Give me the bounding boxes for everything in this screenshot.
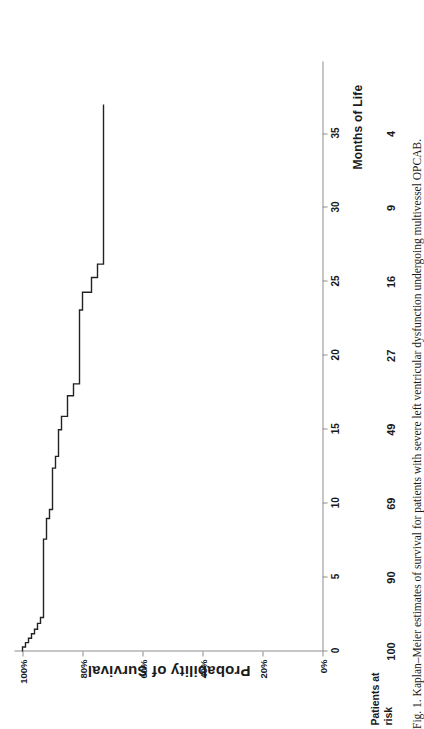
risk-value-0: 100 [384,642,396,660]
risk-title-line1: Patients at [368,672,380,725]
x-tick-label: 20 [329,349,340,360]
x-tick-label: 30 [329,201,340,212]
x-tick-15: 15 [322,428,327,429]
x-tick-35: 35 [322,133,327,134]
risk-title-line2: risk [381,672,394,725]
y-tick-label: 0% [318,659,329,673]
x-tick-25: 25 [322,280,327,281]
x-axis-title: Months of Life [350,84,364,169]
x-tick-label: 5 [329,573,340,579]
y-tick-80: 80% [82,651,83,656]
x-tick-label: 15 [329,423,340,434]
plot-area [22,67,322,651]
x-tick-label: 10 [329,497,340,508]
x-tick-20: 20 [322,354,327,355]
y-tick-100: 100% [22,651,23,656]
y-tick-40: 40% [202,651,203,656]
km-curve-path [22,104,103,651]
x-tick-5: 5 [322,576,327,577]
x-tick-label: 25 [329,275,340,286]
x-tick-30: 30 [322,206,327,207]
y-axis-title: Probability of Survival [19,663,319,680]
risk-value-5: 90 [384,571,396,583]
risk-value-10: 69 [384,497,396,509]
risk-table-title: Patients at risk [368,672,394,725]
risk-value-20: 27 [384,349,396,361]
risk-value-30: 9 [384,204,396,210]
x-tick-10: 10 [322,502,327,503]
y-tick-60: 60% [142,651,143,656]
y-tick-0: 0% [322,651,323,656]
figure-caption: Fig. 1. Kaplan–Meier estimates of surviv… [411,0,424,729]
risk-value-15: 49 [384,423,396,435]
x-tick-label: 35 [329,127,340,138]
x-tick-label: 0 [329,647,340,653]
km-survival-curve [22,67,322,651]
risk-value-25: 16 [384,275,396,287]
y-tick-20: 20% [262,651,263,656]
risk-value-35: 4 [384,130,396,136]
